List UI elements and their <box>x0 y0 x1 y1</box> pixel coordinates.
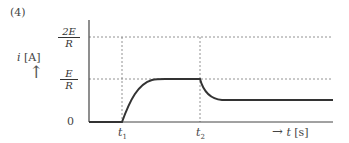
current-graph <box>0 0 349 143</box>
current-curve <box>89 79 333 122</box>
